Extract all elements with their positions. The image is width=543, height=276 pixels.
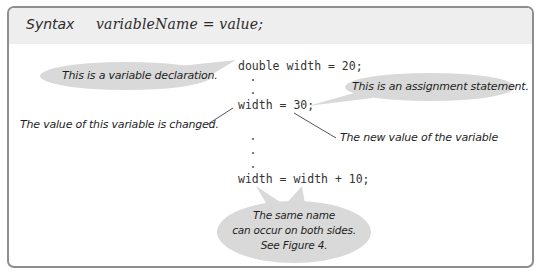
ellipsis-dot (252, 79, 254, 81)
ellipsis-dot (252, 138, 254, 140)
ellipsis-dot (252, 166, 254, 168)
new-value-note: The new value of the variable (340, 131, 498, 144)
same-name-note-line3: See Figure 4. (218, 239, 370, 251)
declaration-note: This is a variable declaration. (62, 69, 218, 82)
leader-line-new-value (294, 113, 336, 138)
changed-note: The value of this variable is changed. (20, 118, 219, 131)
assignment-note: This is an assignment statement. (352, 80, 529, 93)
ellipsis-dot (252, 152, 254, 154)
ellipsis-dot (252, 92, 254, 94)
same-name-note-line2: can occur on both sides. (218, 224, 370, 236)
code-declaration: double width = 20; (238, 59, 363, 73)
code-assignment: width = 30; (238, 98, 314, 112)
code-self-assignment: width = width + 10; (238, 172, 370, 186)
same-name-note-line1: The same name (218, 209, 370, 221)
